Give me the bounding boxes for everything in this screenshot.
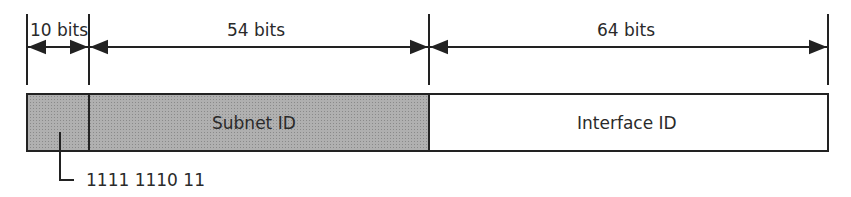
label-54-bits: 54 bits bbox=[227, 20, 285, 40]
tick-lines bbox=[27, 14, 828, 85]
label-10-bits: 10 bits bbox=[30, 20, 88, 40]
address-diagram bbox=[0, 0, 851, 197]
label-interface-id: Interface ID bbox=[577, 113, 677, 133]
label-64-bits: 64 bits bbox=[597, 20, 655, 40]
label-prefix-value: 1111 1110 11 bbox=[86, 170, 205, 190]
label-subnet-id: Subnet ID bbox=[212, 113, 296, 133]
